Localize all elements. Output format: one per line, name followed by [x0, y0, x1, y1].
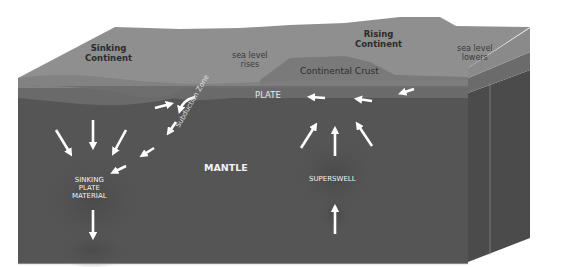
label-line: SINKING — [72, 176, 107, 184]
label-line: sea level — [232, 51, 268, 60]
label-superswell: SUPERSWELL — [309, 175, 356, 183]
label-sinking-continent: Sinking Continent — [85, 44, 132, 64]
block-diagram-svg — [0, 0, 563, 267]
label-line: lowers — [457, 53, 493, 62]
label-plate: PLATE — [255, 91, 281, 101]
label-line: Continent — [355, 40, 402, 50]
block-side-face — [468, 28, 530, 262]
label-line: rises — [232, 60, 268, 69]
label-sea-level-rises: sea level rises — [232, 51, 268, 69]
plate-tectonics-diagram: Sinking Continent sea level rises Rising… — [0, 0, 563, 267]
label-sinking-plate-material: SINKING PLATE MATERIAL — [72, 176, 107, 200]
label-line: PLATE — [72, 184, 107, 192]
label-rising-continent: Rising Continent — [355, 30, 402, 50]
label-sea-level-lowers: sea level lowers — [457, 44, 493, 62]
arrow-plate-flow — [311, 97, 325, 98]
label-line: MATERIAL — [72, 192, 107, 200]
label-mantle: MANTLE — [204, 163, 248, 174]
label-line: sea level — [457, 44, 493, 53]
label-line: Continent — [85, 54, 132, 64]
label-continental-crust: Continental Crust — [300, 66, 379, 76]
